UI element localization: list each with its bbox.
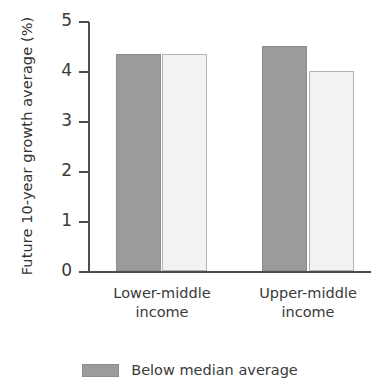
y-tick-label-5: 5	[42, 12, 72, 29]
y-tick-5	[79, 21, 89, 23]
y-tick-1	[79, 221, 89, 223]
x-axis-group-label-upper-middle: Upper-middle income	[233, 284, 380, 322]
group-label-line-1: Lower-middle	[87, 284, 237, 303]
y-axis-line	[88, 22, 90, 273]
y-tick-2	[79, 171, 89, 173]
legend-swatch-below-median-average	[82, 364, 119, 377]
y-tick-3	[79, 121, 89, 123]
x-axis-line	[88, 271, 371, 273]
x-axis-group-label-lower-middle: Lower-middle income	[87, 284, 237, 322]
y-tick-0	[79, 271, 89, 273]
y-tick-label-0: 0	[42, 262, 72, 279]
bar-upper-middle-below-median	[262, 46, 307, 271]
group-label-line-2: income	[87, 303, 237, 322]
chart-legend: Below median average	[0, 362, 380, 378]
y-tick-label-1: 1	[42, 212, 72, 229]
y-tick-label-4: 4	[42, 62, 72, 79]
y-tick-label-3: 3	[42, 112, 72, 129]
group-label-line-1: Upper-middle	[233, 284, 380, 303]
y-tick-label-2: 2	[42, 162, 72, 179]
plot-area: 0 1 2 3 4 5 Lower-middle income Upper-mi…	[0, 0, 380, 388]
legend-label-below-median-average: Below median average	[131, 362, 298, 378]
bar-chart-figure: Future 10-year growth average (%) 0 1 2 …	[0, 0, 380, 388]
bar-upper-middle-above-median	[309, 71, 354, 271]
bar-lower-middle-above-median	[162, 54, 207, 272]
y-tick-4	[79, 71, 89, 73]
group-label-line-2: income	[233, 303, 380, 322]
bar-lower-middle-below-median	[116, 54, 161, 272]
